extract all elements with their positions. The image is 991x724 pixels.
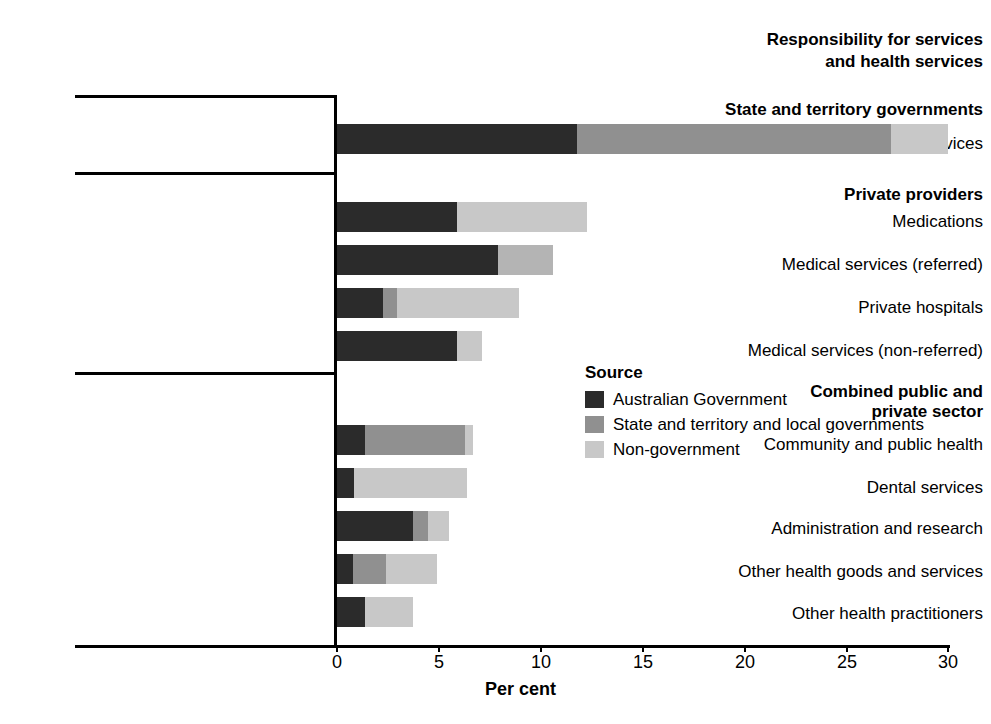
x-tick-label-20: 20	[725, 652, 765, 673]
bar-segment-state-territory-local	[498, 245, 553, 275]
bar-segment-australian-government	[337, 425, 365, 455]
health-expenditure-chart: Responsibility for services and health s…	[0, 0, 991, 724]
bar-segment-australian-government	[337, 468, 354, 498]
legend-label-state-territory-local: State and territory and local government…	[613, 415, 924, 435]
bar-segment-non-government	[428, 511, 449, 541]
bar-segment-state-territory-local	[577, 124, 891, 154]
bar-segment-state-territory-local	[365, 425, 465, 455]
bar-segment-australian-government	[337, 331, 457, 361]
x-tick-0	[336, 645, 338, 652]
bar-segment-state-territory-local	[353, 554, 386, 584]
bar-community-public-health	[337, 425, 473, 455]
bar-medical-services-non-referred	[337, 331, 482, 361]
bar-segment-australian-government	[337, 597, 365, 627]
x-tick-label-30: 30	[928, 652, 968, 673]
bar-segment-state-territory-local	[413, 511, 428, 541]
x-axis-title-text: Per cent	[485, 679, 556, 699]
x-tick-label-5: 5	[419, 652, 459, 673]
x-tick-15	[642, 645, 644, 652]
bar-segment-non-government	[354, 468, 467, 498]
x-tick-label-15: 15	[623, 652, 663, 673]
bar-segment-non-government	[457, 331, 482, 361]
legend-item-non-government: Non-government	[585, 437, 924, 462]
bar-segment-non-government	[386, 554, 437, 584]
bar-segment-non-government	[457, 202, 587, 232]
legend-label-australian-government: Australian Government	[613, 390, 787, 410]
bar-segment-australian-government	[337, 202, 457, 232]
bar-other-health-practitioners	[337, 597, 413, 627]
x-tick-label-25: 25	[827, 652, 867, 673]
x-tick-10	[540, 645, 542, 652]
bar-segment-australian-government	[337, 554, 353, 584]
x-tick-30	[947, 645, 949, 652]
x-tick-label-10: 10	[521, 652, 561, 673]
bar-segment-australian-government	[337, 288, 383, 318]
legend-swatch-australian-government	[585, 391, 604, 408]
bar-segment-state-territory-local	[383, 288, 397, 318]
bar-public-hospital-services	[337, 124, 948, 154]
x-axis-title: Per cent	[0, 679, 991, 700]
legend-swatch-non-government	[585, 441, 604, 458]
x-tick-20	[744, 645, 746, 652]
bar-segment-australian-government	[337, 245, 498, 275]
legend-item-state-territory-local: State and territory and local government…	[585, 412, 924, 437]
bar-segment-non-government	[891, 124, 948, 154]
bar-medications	[337, 202, 587, 232]
plot-area	[0, 0, 991, 724]
bar-segment-australian-government	[337, 124, 577, 154]
x-tick-5	[438, 645, 440, 652]
legend-title: Source	[585, 363, 924, 383]
legend-item-australian-government: Australian Government	[585, 387, 924, 412]
bar-administration-research	[337, 511, 449, 541]
bar-medical-services-referred	[337, 245, 553, 275]
bar-segment-non-government	[465, 425, 473, 455]
x-tick-label-0: 0	[317, 652, 357, 673]
bar-segment-non-government	[365, 597, 413, 627]
legend-label-non-government: Non-government	[613, 440, 740, 460]
bar-segment-non-government	[397, 288, 519, 318]
bar-private-hospitals	[337, 288, 519, 318]
legend-swatch-state-territory-local	[585, 416, 604, 433]
bar-other-health-goods	[337, 554, 437, 584]
bar-segment-australian-government	[337, 511, 413, 541]
bar-dental-services	[337, 468, 467, 498]
legend: Source Australian Government State and t…	[585, 363, 924, 462]
x-tick-25	[846, 645, 848, 652]
